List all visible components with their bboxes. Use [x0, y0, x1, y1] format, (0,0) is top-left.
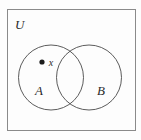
set-b-circle [57, 45, 122, 110]
set-a-label: A [34, 83, 43, 98]
element-x-label: x [48, 57, 54, 68]
venn-diagram-figure: U A B x [0, 0, 141, 140]
element-x-point [39, 59, 44, 64]
set-a-circle [19, 45, 84, 110]
venn-diagram-canvas: U A B x [0, 0, 141, 140]
universal-set-rectangle [8, 10, 136, 131]
set-b-label: B [97, 83, 105, 98]
universal-set-label: U [15, 17, 26, 32]
